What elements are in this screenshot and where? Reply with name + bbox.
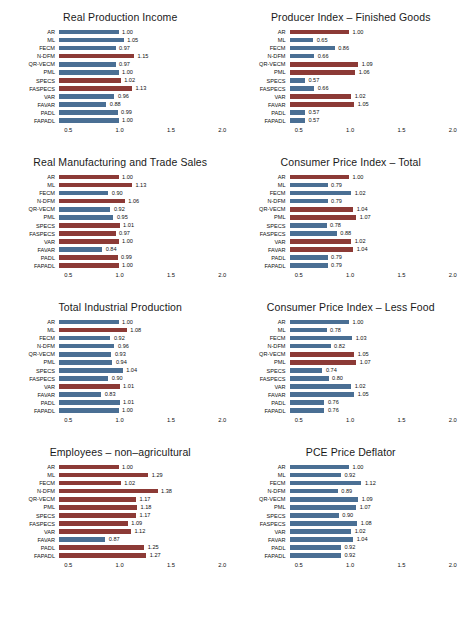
axis-tick-label: 0.5 (295, 417, 303, 423)
bar (58, 407, 120, 414)
bar-row: ML1.05 (58, 36, 233, 44)
bar-rows: AR1.00ML1.29FECM1.02N-DFM1.38QR-VECM1.17… (58, 463, 233, 560)
bar (58, 85, 133, 92)
category-label: PADL (271, 399, 288, 407)
bar-rows: AR1.00ML1.08FECM0.92N-DFM0.96QR-VECM0.93… (58, 318, 233, 415)
category-label: SPECS (267, 222, 289, 230)
chart-title: Real Manufacturing and Trade Sales (6, 155, 235, 169)
category-label: QR-VECM (29, 495, 58, 503)
x-axis: 0.51.01.52.0 (58, 125, 233, 140)
bar-track: 0.74 (289, 366, 464, 374)
bar-value-label: 1.00 (350, 318, 363, 327)
bar-row: FAPADL1.00 (58, 117, 233, 125)
bar-row: FASPECS1.08 (289, 520, 464, 528)
bar-row: FECM1.02 (58, 479, 233, 487)
bar-track: 1.01 (58, 221, 233, 229)
bar (289, 504, 358, 511)
chart-plot-area: AR1.00ML0.92FECM1.12N-DFM0.89QR-VECM1.09… (237, 463, 466, 575)
category-label: QR-VECM (259, 495, 288, 503)
category-label: FECM (39, 44, 58, 52)
bar-track: 1.08 (58, 326, 233, 334)
bar (58, 512, 137, 519)
bar-row: N-DFM0.82 (289, 342, 464, 350)
bar-track: 0.57 (289, 117, 464, 125)
bar-row: PML0.94 (58, 358, 233, 366)
category-label: N-DFM (37, 342, 58, 350)
bar-track: 0.79 (289, 254, 464, 262)
bar-row: PML0.95 (58, 213, 233, 221)
bar (289, 182, 329, 189)
bar-row: PADL0.79 (289, 254, 464, 262)
category-label: FASPECS (29, 85, 58, 93)
category-label: PADL (271, 254, 288, 262)
bar (58, 254, 119, 261)
chart-title: Producer Index – Finished Goods (237, 10, 466, 24)
bar-rows: AR1.00ML1.13FECM0.90N-DFM1.06QR-VECM0.92… (58, 173, 233, 270)
bar (289, 319, 351, 326)
bar-row: SPECS1.17 (58, 511, 233, 519)
category-label: ML (47, 36, 58, 44)
chart-plot-area: AR1.00ML1.29FECM1.02N-DFM1.38QR-VECM1.17… (6, 463, 235, 575)
chart-panel: Real Manufacturing and Trade SalesAR1.00… (6, 155, 235, 300)
bar-track: 0.92 (289, 552, 464, 560)
bar (289, 230, 338, 237)
bar-row: N-DFM0.66 (289, 52, 464, 60)
bar-track: 1.04 (58, 366, 233, 374)
bar-value-label: 1.38 (159, 487, 172, 496)
bar-row: FAVAR0.83 (58, 391, 233, 399)
chart-panel: Real Production IncomeAR1.00ML1.05FECM0.… (6, 10, 235, 155)
bar-track: 1.00 (289, 173, 464, 181)
bar-row: PML1.07 (289, 213, 464, 221)
bar-row: PML1.07 (289, 358, 464, 366)
bar (58, 383, 121, 390)
bar-row: VAR1.00 (58, 238, 233, 246)
bar-row: N-DFM0.89 (289, 487, 464, 495)
bar-value-label: 1.06 (126, 197, 139, 206)
category-label: AR (47, 28, 58, 36)
bar (289, 552, 342, 559)
bar-row: FAVAR0.88 (58, 101, 233, 109)
bar (289, 359, 358, 366)
bar-value-label: 0.83 (102, 390, 115, 399)
chart-panel: Producer Index – Finished GoodsAR1.00ML0… (237, 10, 466, 155)
bar-track: 1.04 (289, 246, 464, 254)
bar-track: 0.79 (289, 262, 464, 270)
category-label: N-DFM (267, 197, 288, 205)
bar-row: FAVAR1.04 (289, 246, 464, 254)
category-label: FAVAR (268, 391, 289, 399)
bar-value-label: 1.13 (133, 181, 146, 190)
bar-row: AR1.00 (58, 28, 233, 36)
chart-plot-area: AR1.00ML0.78FECM1.03N-DFM0.82QR-VECM1.05… (237, 318, 466, 430)
chart-page: Real Production IncomeAR1.00ML1.05FECM0.… (0, 0, 471, 623)
bar-value-label: 1.00 (120, 463, 133, 472)
chart-title: Total Industrial Production (6, 300, 235, 314)
bar-row: FAPADL0.79 (289, 262, 464, 270)
bar-track: 1.08 (289, 520, 464, 528)
bar-track: 1.09 (289, 495, 464, 503)
category-label: FECM (270, 44, 289, 52)
bar-row: N-DFM1.06 (58, 197, 233, 205)
bar-row: VAR1.12 (58, 528, 233, 536)
bar-track: 1.05 (289, 391, 464, 399)
bar (289, 61, 360, 68)
bar-value-label: 1.29 (149, 471, 162, 480)
bar (58, 480, 122, 487)
bar-track: 1.09 (289, 60, 464, 68)
bar (289, 29, 351, 36)
category-label: FECM (270, 334, 289, 342)
category-label: FASPECS (29, 520, 58, 528)
category-label: ML (47, 326, 58, 334)
bar-track: 1.00 (58, 407, 233, 415)
category-label: PADL (271, 544, 288, 552)
bar-track: 1.04 (289, 205, 464, 213)
axis-tick-label: 2.0 (218, 272, 226, 278)
bar (58, 101, 107, 108)
category-label: SPECS (36, 367, 58, 375)
bar-row: ML1.08 (58, 326, 233, 334)
bar-track: 1.07 (289, 358, 464, 366)
bar (289, 528, 353, 535)
bar-track: 1.29 (58, 471, 233, 479)
bar-row: FAVAR0.84 (58, 246, 233, 254)
bar-row: PADL1.01 (58, 399, 233, 407)
bar-row: VAR1.02 (289, 528, 464, 536)
